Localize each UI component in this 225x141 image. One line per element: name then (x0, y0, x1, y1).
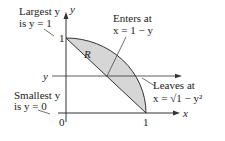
leaves-label-1: Leaves at (153, 79, 195, 91)
diagram-canvas: y x 1 1 0 R y Largest y is y = 1 Smalles… (0, 0, 225, 141)
y-tick-label: 1 (59, 32, 65, 44)
region-label: R (83, 48, 91, 60)
leader-largest (44, 29, 54, 36)
enters-label-1: Enters at (113, 12, 152, 24)
origin-label: 0 (59, 116, 65, 128)
enters-label-2: x = 1 − y (113, 24, 153, 36)
region-r (66, 38, 146, 113)
smallest-y-label-2: is y = 0 (14, 100, 47, 112)
largest-y-label-1: Largest y (19, 5, 61, 17)
horizontal-line-label: y (42, 70, 48, 82)
x-tick-label: 1 (143, 116, 149, 128)
x-axis-label: x (182, 107, 188, 119)
y-axis-arrow-icon (64, 12, 69, 19)
y-axis-label: y (69, 3, 75, 15)
largest-y-label-2: is y = 1 (19, 17, 52, 29)
leaves-label-2: x = √1 − y² (153, 92, 203, 104)
horizontal-line-arrow-icon (175, 74, 182, 78)
x-axis-arrow-icon (173, 111, 180, 116)
